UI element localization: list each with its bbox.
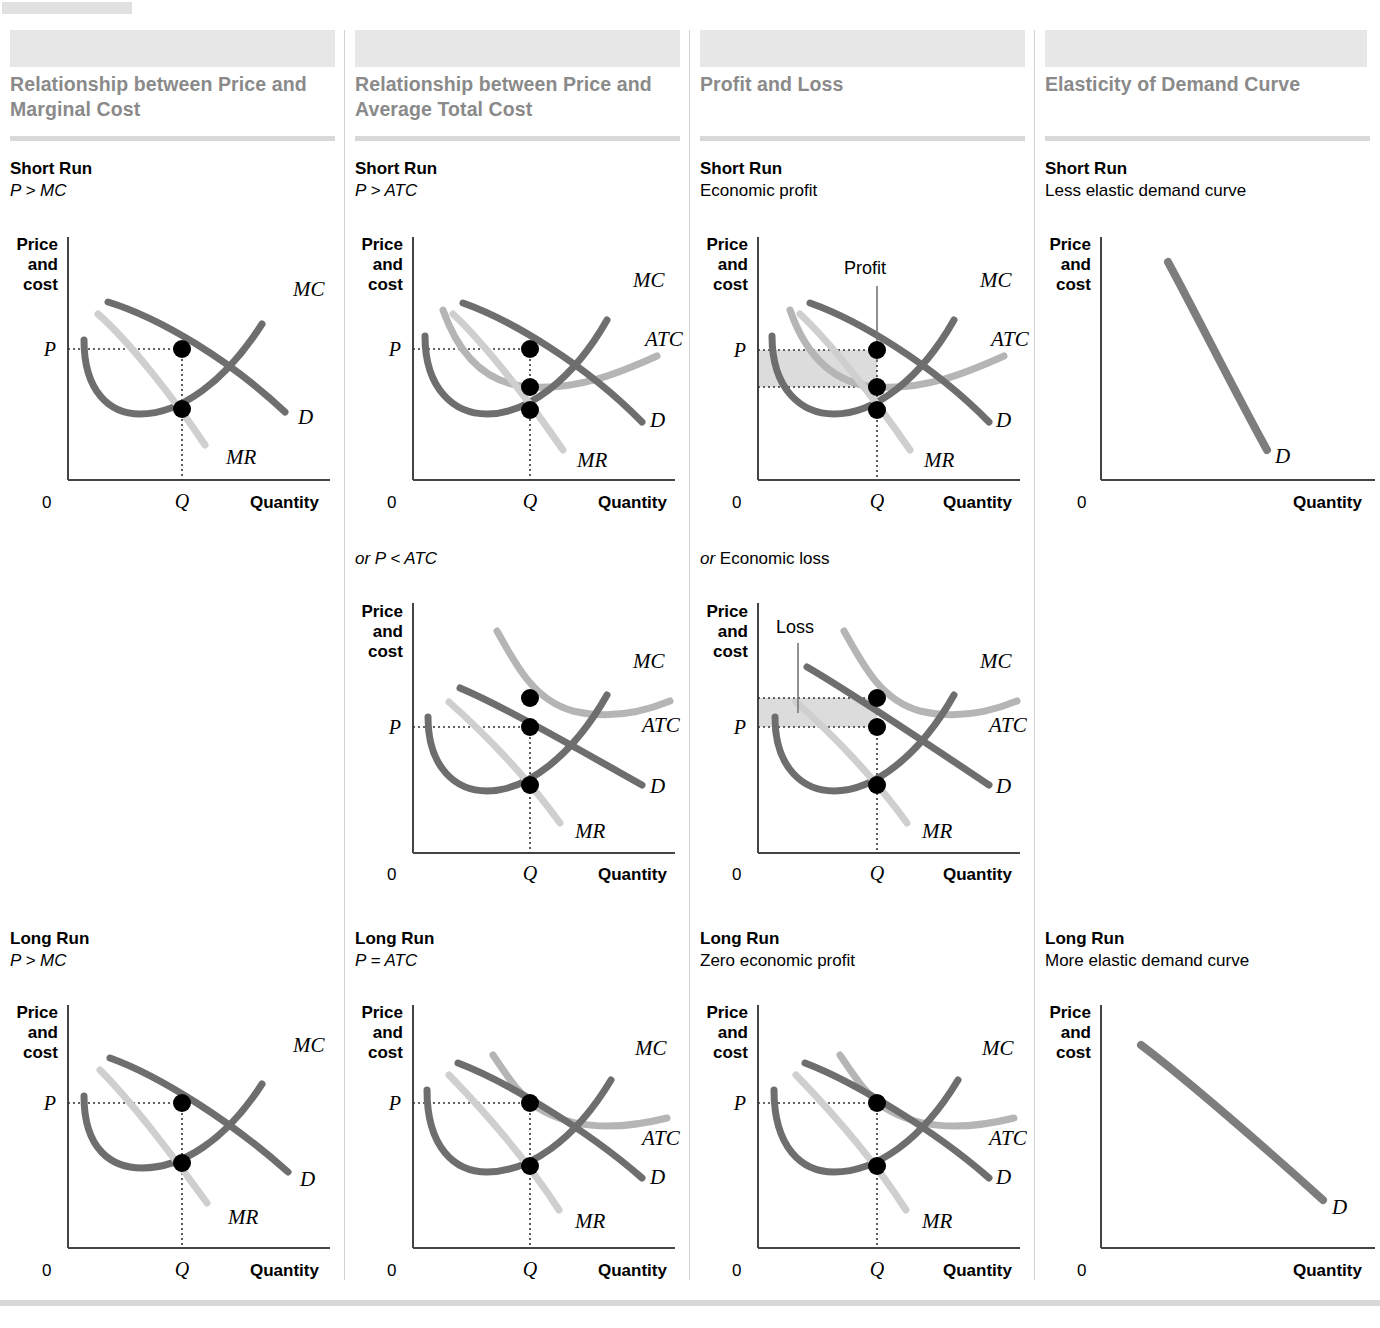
chart-c4-long-run: Price and cost D 0 Quantity (1035, 1000, 1380, 1285)
condition-label: Zero economic profit (700, 950, 1030, 972)
svg-text:cost: cost (1056, 1043, 1091, 1062)
column-profit-and-loss: Profit and Loss Short Run Economic profi… (690, 0, 1035, 1295)
chart-c3-middle: Price and cost Loss (690, 595, 1035, 885)
svg-text:and: and (373, 622, 403, 641)
panel-label-c3-middle: or Economic loss (700, 548, 1030, 570)
svg-text:Quantity: Quantity (250, 1261, 319, 1280)
svg-text:and: and (718, 255, 748, 274)
svg-text:P: P (733, 716, 746, 738)
panel-label-c3-long: Long Run Zero economic profit (700, 928, 1030, 972)
svg-text:MR: MR (574, 819, 605, 843)
bottom-rule (0, 1300, 1380, 1306)
svg-text:and: and (1061, 255, 1091, 274)
column-header-band (355, 30, 680, 67)
column-header-title: Elasticity of Demand Curve (1045, 72, 1367, 97)
svg-text:Q: Q (870, 1258, 885, 1280)
svg-text:MR: MR (576, 448, 607, 472)
svg-text:Q: Q (870, 862, 885, 884)
svg-text:P: P (43, 1092, 56, 1114)
svg-text:Price: Price (1049, 235, 1091, 254)
column-header-rule (355, 136, 680, 141)
svg-text:and: and (373, 1023, 403, 1042)
panel-label-c2-long: Long Run P = ATC (355, 928, 685, 972)
column-header-rule (10, 136, 335, 141)
svg-text:Quantity: Quantity (598, 865, 667, 884)
svg-text:Quantity: Quantity (598, 493, 667, 512)
svg-text:MC: MC (979, 649, 1012, 673)
svg-text:Price: Price (706, 235, 748, 254)
run-label: Short Run (10, 158, 340, 180)
svg-text:Quantity: Quantity (943, 1261, 1012, 1280)
chart-c4-short-run: Price and cost D 0 Quantity (1035, 232, 1380, 512)
svg-text:Price: Price (706, 1003, 748, 1022)
svg-text:MC: MC (292, 1033, 325, 1057)
panel-label-c1-short: Short Run P > MC (10, 158, 340, 202)
column-header-band (1045, 30, 1367, 67)
condition-label: P > MC (10, 180, 340, 202)
svg-text:0: 0 (732, 865, 741, 884)
svg-text:cost: cost (368, 1043, 403, 1062)
svg-text:cost: cost (23, 1043, 58, 1062)
svg-text:P: P (733, 339, 746, 361)
panel-label-c4-long: Long Run More elastic demand curve (1045, 928, 1375, 972)
svg-text:and: and (373, 255, 403, 274)
svg-text:MR: MR (227, 1205, 258, 1229)
svg-text:ATC: ATC (640, 1126, 681, 1150)
profit-annotation-label: Profit (844, 258, 886, 278)
column-price-marginal-cost: Relationship between Price and Marginal … (0, 0, 345, 1295)
svg-text:Q: Q (175, 1258, 190, 1280)
column-header-title: Profit and Loss (700, 72, 1022, 97)
svg-text:Price: Price (706, 602, 748, 621)
svg-text:Price: Price (361, 1003, 403, 1022)
run-label: Long Run (700, 928, 1030, 950)
svg-text:Price: Price (16, 235, 58, 254)
run-label: Long Run (1045, 928, 1375, 950)
svg-text:Price: Price (1049, 1003, 1091, 1022)
svg-text:cost: cost (713, 275, 748, 294)
run-label: Short Run (355, 158, 685, 180)
condition-label: P > MC (10, 950, 340, 972)
svg-text:0: 0 (42, 493, 51, 512)
svg-text:MR: MR (921, 1209, 952, 1233)
svg-text:0: 0 (387, 865, 396, 884)
svg-text:MR: MR (921, 819, 952, 843)
column-header-title: Relationship between Price and Average T… (355, 72, 677, 122)
panel-label-c2-short: Short Run P > ATC (355, 158, 685, 202)
chart-c3-long-run: Price and cost MC ATC D MR P 0 Q (690, 1000, 1035, 1285)
svg-text:D: D (299, 1167, 315, 1191)
condition-label: Economic profit (700, 180, 1030, 202)
run-label: Short Run (700, 158, 1030, 180)
svg-text:and: and (718, 1023, 748, 1042)
condition-label: P < ATC (375, 549, 437, 568)
chart-c1-long-run: Price and cost MC D MR P 0 Q Quantity (0, 1000, 345, 1285)
svg-text:and: and (28, 1023, 58, 1042)
condition-label: Economic loss (720, 549, 830, 568)
svg-text:D: D (649, 774, 665, 798)
svg-text:P: P (43, 338, 56, 360)
svg-text:P: P (733, 1092, 746, 1114)
panel-label-c3-short: Short Run Economic profit (700, 158, 1030, 202)
svg-text:0: 0 (732, 493, 741, 512)
condition-label: More elastic demand curve (1045, 950, 1375, 972)
curve-label-d: D (297, 405, 313, 429)
svg-text:P: P (388, 338, 401, 360)
chart-c2-middle: Price and cost MC ATC D (345, 595, 690, 885)
svg-text:Quantity: Quantity (943, 493, 1012, 512)
column-price-average-total-cost: Relationship between Price and Average T… (345, 0, 690, 1295)
or-label: or (355, 549, 370, 568)
svg-text:and: and (1061, 1023, 1091, 1042)
svg-text:D: D (649, 408, 665, 432)
svg-text:P: P (388, 716, 401, 738)
svg-text:MC: MC (981, 1036, 1014, 1060)
svg-text:Quantity: Quantity (1293, 493, 1362, 512)
svg-text:0: 0 (387, 1261, 396, 1280)
curve-label-d: D (1331, 1195, 1347, 1219)
condition-label: Less elastic demand curve (1045, 180, 1375, 202)
svg-text:MR: MR (574, 1209, 605, 1233)
svg-text:MC: MC (632, 268, 665, 292)
panel-label-c4-short: Short Run Less elastic demand curve (1045, 158, 1375, 202)
svg-text:ATC: ATC (987, 1126, 1028, 1150)
svg-text:Quantity: Quantity (598, 1261, 667, 1280)
svg-text:and: and (28, 255, 58, 274)
svg-text:MC: MC (979, 268, 1012, 292)
